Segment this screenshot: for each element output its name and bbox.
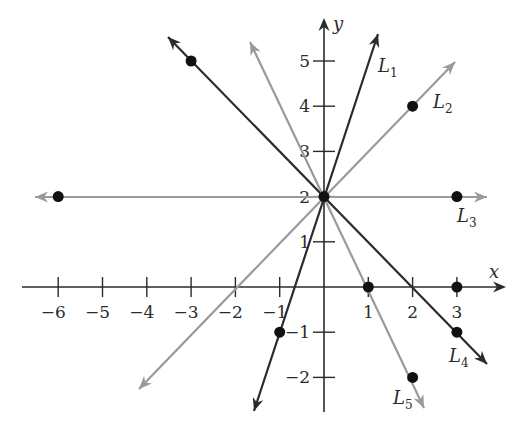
y-tick-label: −1 <box>285 322 310 342</box>
lines <box>35 34 487 411</box>
line-label-l1: L1 <box>377 55 398 80</box>
line-label-subscript: 5 <box>405 398 413 412</box>
line-label-l5: L5 <box>392 387 413 412</box>
line-label-subscript: 3 <box>469 216 477 230</box>
line-label-l4: L4 <box>448 345 469 370</box>
x-tick-label: 1 <box>363 302 374 322</box>
data-point <box>451 327 462 338</box>
data-point <box>407 372 418 383</box>
marked-points <box>53 56 463 383</box>
x-tick-label: −6 <box>41 302 66 322</box>
coordinate-plane-figure: xy−6−5−4−3−2−1123−2−112345 L1L2L3L4L5 <box>0 0 517 431</box>
x-axis-label: x <box>489 261 499 282</box>
line-l5 <box>250 42 424 408</box>
data-point <box>451 282 462 293</box>
line-label-l3: L3 <box>456 205 477 230</box>
line-label-subscript: 1 <box>390 66 398 80</box>
x-tick-label: −5 <box>85 302 110 322</box>
labels: L1L2L3L4L5 <box>377 55 477 412</box>
data-point <box>363 282 374 293</box>
y-tick-label: 4 <box>299 96 310 116</box>
data-point <box>319 191 330 202</box>
plot-area: xy−6−5−4−3−2−1123−2−112345 L1L2L3L4L5 <box>0 0 517 431</box>
y-tick-label: 5 <box>299 51 310 71</box>
data-point <box>407 101 418 112</box>
line-label-subscript: 4 <box>461 356 469 370</box>
x-tick-label: 3 <box>451 302 462 322</box>
data-point <box>186 56 197 67</box>
y-axis-label: y <box>332 13 344 34</box>
x-tick-label: 2 <box>407 302 418 322</box>
data-point <box>53 191 64 202</box>
line-label-l2: L2 <box>432 91 453 116</box>
data-point <box>451 191 462 202</box>
y-tick-label: −2 <box>285 367 310 387</box>
data-point <box>274 327 285 338</box>
x-tick-label: −4 <box>129 302 154 322</box>
x-tick-label: −3 <box>174 302 199 322</box>
line-label-subscript: 2 <box>445 102 453 116</box>
